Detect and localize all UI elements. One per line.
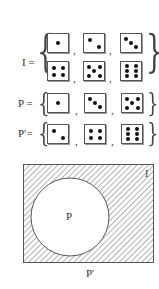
venn-diagram: [0, 160, 159, 289]
pip: [134, 64, 138, 68]
comma: ,: [111, 136, 114, 147]
comma: ,: [111, 105, 114, 116]
pip: [61, 136, 65, 140]
pip: [98, 136, 102, 140]
pip: [134, 74, 138, 78]
circle-label: P: [66, 211, 72, 222]
die-4: [47, 61, 69, 81]
pip: [98, 74, 102, 78]
comma: ,: [75, 105, 78, 116]
pip: [89, 136, 93, 140]
pip: [125, 97, 129, 101]
pip: [87, 74, 91, 78]
pip: [136, 106, 140, 110]
pip: [136, 97, 140, 101]
die-1: [47, 93, 69, 113]
right-brace-icon: }: [147, 118, 159, 148]
pip: [93, 101, 97, 105]
pip: [61, 73, 65, 77]
pip: [97, 45, 101, 49]
pip: [88, 97, 92, 101]
pip: [92, 69, 96, 73]
die-1: [47, 33, 69, 53]
comma: ,: [75, 136, 78, 147]
pip: [135, 127, 139, 131]
pip: [52, 129, 56, 133]
pip: [88, 38, 92, 42]
pip: [129, 41, 133, 45]
comma: ,: [109, 73, 112, 84]
pip: [125, 106, 129, 110]
pip: [126, 127, 130, 131]
pip: [126, 137, 130, 141]
die-3: [120, 33, 142, 53]
universe-label: I: [145, 168, 148, 179]
die-4: [84, 124, 106, 144]
pip: [56, 101, 60, 105]
comma: ,: [73, 45, 76, 56]
die-2: [47, 124, 69, 144]
pip: [134, 45, 138, 49]
die-2: [83, 33, 105, 53]
die-6: [121, 124, 143, 144]
pip: [134, 69, 138, 73]
pip: [98, 129, 102, 133]
pip: [98, 105, 102, 109]
pip: [89, 129, 93, 133]
comma: ,: [109, 45, 112, 56]
comma: ,: [73, 73, 76, 84]
complement-label: P′: [86, 268, 95, 279]
pip: [125, 64, 129, 68]
pip: [124, 37, 128, 41]
right-brace-icon: }: [146, 26, 159, 77]
pip: [52, 66, 56, 70]
pip: [125, 69, 129, 73]
set-p-complement-label: P′=: [18, 128, 33, 139]
pip: [52, 73, 56, 77]
pip: [135, 132, 139, 136]
die-5: [121, 93, 143, 113]
die-5: [83, 61, 105, 81]
pip: [126, 132, 130, 136]
die-6: [120, 61, 142, 81]
set-i-label: I =: [22, 57, 35, 68]
pip: [135, 137, 139, 141]
pip: [125, 74, 129, 78]
right-brace-icon: }: [147, 88, 159, 118]
die-3: [84, 93, 106, 113]
pip: [56, 41, 60, 45]
set-p-label: P =: [18, 98, 33, 109]
pip: [87, 65, 91, 69]
pip: [130, 101, 134, 105]
pip: [61, 66, 65, 70]
pip: [98, 65, 102, 69]
